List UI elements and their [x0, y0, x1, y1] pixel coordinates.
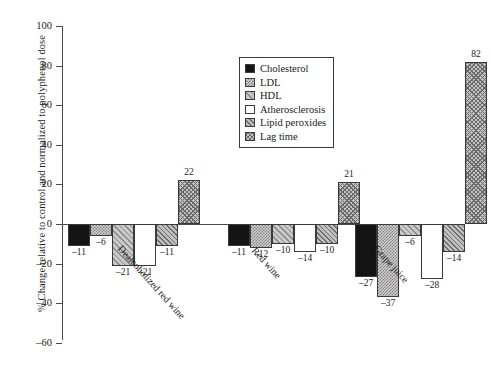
y-tick-label: –40: [12, 298, 52, 308]
legend-swatch-icon: [245, 91, 255, 100]
bar: [250, 224, 272, 248]
y-tick-label: 100: [12, 21, 52, 31]
bar-value-label: 22: [172, 168, 206, 178]
legend-swatch-icon: [245, 64, 255, 73]
bar-value-label: 21: [332, 170, 366, 180]
bar-value-label: –10: [310, 246, 344, 256]
legend-item: Lipid peroxides: [245, 116, 326, 130]
bar: [90, 224, 112, 236]
y-tick-label: 80: [12, 61, 52, 71]
legend-item: Cholesterol: [245, 62, 326, 76]
legend-label: LDL: [260, 77, 280, 88]
bar: [338, 182, 360, 224]
legend-label: Cholesterol: [260, 63, 308, 74]
legend-item: Atherosclerosis: [245, 103, 326, 117]
bar-value-label: –14: [437, 254, 471, 264]
bar: [156, 224, 178, 246]
legend-swatch-icon: [245, 132, 255, 141]
legend-item: HDL: [245, 89, 326, 103]
legend-item: LDL: [245, 76, 326, 90]
y-tick-label: –20: [12, 259, 52, 269]
bar: [178, 180, 200, 224]
y-tick-label: 40: [12, 140, 52, 150]
bar: [272, 224, 294, 244]
legend: CholesterolLDLHDLAtherosclerosisLipid pe…: [239, 57, 334, 148]
y-tick-label: –60: [12, 338, 52, 348]
legend-item: Lag time: [245, 130, 326, 144]
bar: [465, 62, 487, 224]
bar: [316, 224, 338, 244]
y-tick-label: 60: [12, 100, 52, 110]
y-axis-line: [62, 26, 63, 340]
bar-value-label: –11: [150, 248, 184, 258]
bar-value-label: –11: [62, 248, 96, 258]
bar: [443, 224, 465, 252]
bar-value-label: 82: [459, 50, 491, 60]
bar: [228, 224, 250, 246]
bar: [399, 224, 421, 236]
y-tick-label: 0: [12, 219, 52, 229]
bar-value-label: –37: [371, 299, 405, 309]
legend-swatch-icon: [245, 78, 255, 87]
legend-label: HDL: [260, 90, 282, 101]
bar-value-label: –28: [415, 281, 449, 291]
legend-swatch-icon: [245, 105, 255, 114]
bar: [421, 224, 443, 279]
legend-label: Lipid peroxides: [260, 117, 326, 128]
legend-label: Lag time: [260, 131, 298, 142]
legend-swatch-icon: [245, 118, 255, 127]
legend-label: Atherosclerosis: [260, 104, 325, 115]
y-tick-label: 20: [12, 179, 52, 189]
